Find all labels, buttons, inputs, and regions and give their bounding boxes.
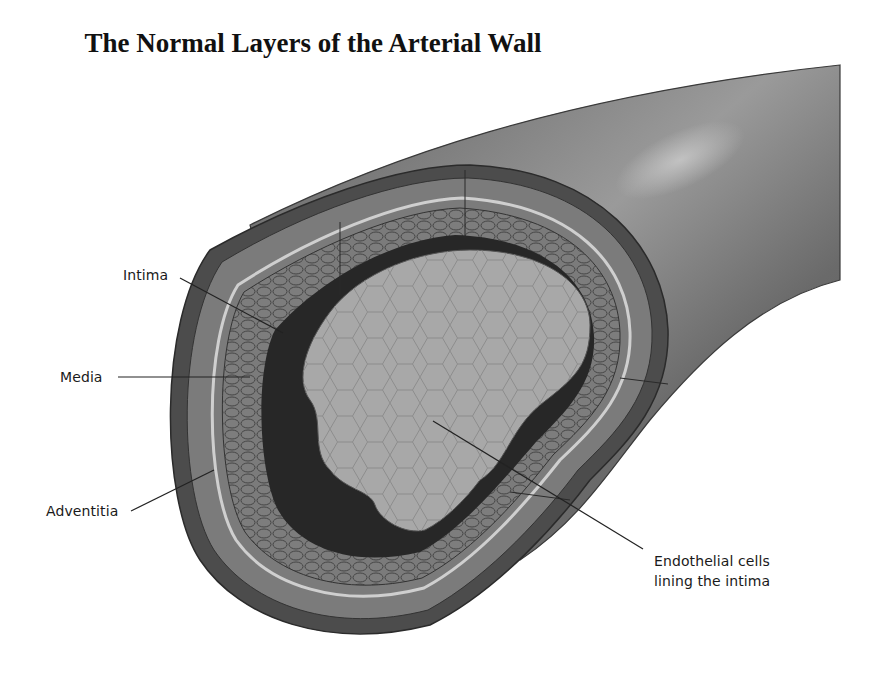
label-media: Media	[60, 367, 103, 387]
label-adventitia: Adventitia	[46, 501, 118, 521]
label-endothelial-line-2: lining the intima	[654, 571, 770, 591]
label-intima: Intima	[123, 265, 168, 285]
label-endothelial-line-1: Endothelial cells	[654, 551, 770, 571]
label-endothelial-cells: Endothelial cells lining the intima	[654, 551, 770, 591]
